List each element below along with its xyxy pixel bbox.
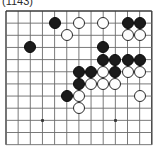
white-stone-c9-r6[interactable] <box>97 66 109 78</box>
white-stone-c7-r9[interactable] <box>73 102 85 114</box>
black-stone-c12-r2[interactable] <box>134 17 146 29</box>
black-stone-c8-r6[interactable] <box>85 66 97 78</box>
white-stone-c12-r3[interactable] <box>134 29 146 41</box>
black-stone-c11-r5[interactable] <box>122 54 134 66</box>
white-stone-c11-r6[interactable] <box>122 66 134 78</box>
black-stone-c12-r5[interactable] <box>134 54 146 66</box>
black-stone-c7-r7[interactable] <box>73 78 85 90</box>
black-stone-c9-r5[interactable] <box>97 54 109 66</box>
black-stone-c10-r5[interactable] <box>109 54 121 66</box>
white-stone-c8-r7[interactable] <box>85 78 97 90</box>
white-stone-c12-r6[interactable] <box>134 66 146 78</box>
white-stone-c7-r8[interactable] <box>73 90 85 102</box>
black-stone-c7-r6[interactable] <box>73 66 85 78</box>
black-stone-c6-r8[interactable] <box>61 90 73 102</box>
star-point <box>114 119 117 122</box>
white-stone-c6-r3[interactable] <box>61 29 73 41</box>
white-stone-c11-r3[interactable] <box>122 29 134 41</box>
go-board-container[interactable] <box>0 0 158 156</box>
black-stone-c5-r2[interactable] <box>49 17 61 29</box>
black-stone-c11-r2[interactable] <box>122 17 134 29</box>
white-stone-c7-r2[interactable] <box>73 17 85 29</box>
star-point <box>41 119 44 122</box>
go-diagram-figure: (1143) <box>0 0 158 156</box>
white-stone-c9-r7[interactable] <box>97 78 109 90</box>
white-stone-c12-r8[interactable] <box>134 90 146 102</box>
